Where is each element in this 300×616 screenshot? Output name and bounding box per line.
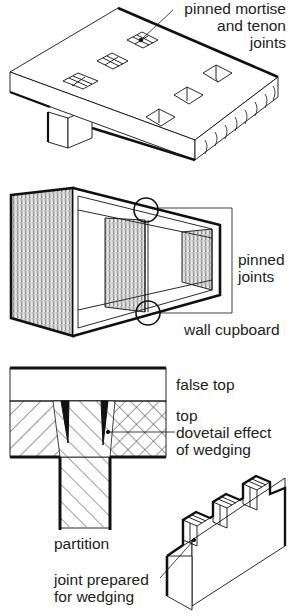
label-line: joints [238,268,285,285]
label-line: pinned mortise [184,0,286,17]
label-joint-prepared: joint prepared for wedging [54,571,149,605]
label-line: joint prepared [54,571,149,588]
label-top: top [176,407,198,424]
label-line: dovetail effect [176,424,271,441]
label-false-top: false top [176,376,235,393]
label-partition: partition [54,535,109,552]
label-line: joints [184,34,286,51]
joinery-diagram [0,0,300,616]
wedging-joint-figure [160,476,285,610]
label-pinned-mortise: pinned mortise and tenon joints [184,0,286,51]
wall-cupboard-figure [11,188,232,336]
label-dovetail-effect: dovetail effect of wedging [176,424,271,458]
label-line: pinned [238,251,285,268]
label-line: of wedging [176,441,271,458]
wedged-section-figure [10,368,175,530]
label-line: and tenon [184,17,286,34]
label-wall-cupboard: wall cupboard [184,321,280,338]
label-line: for wedging [54,588,149,605]
label-pinned-joints: pinned joints [238,251,285,285]
